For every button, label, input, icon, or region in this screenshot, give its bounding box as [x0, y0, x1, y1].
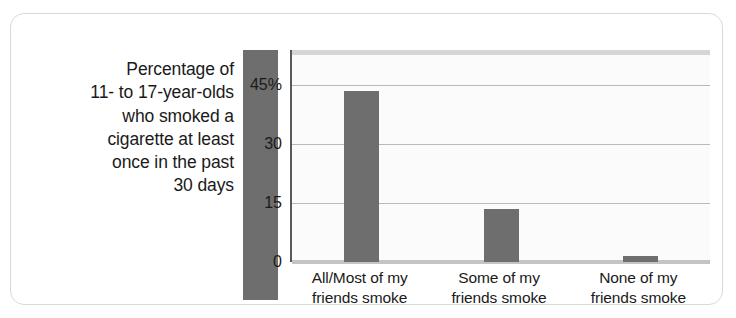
x-axis-labels: All/Most of my friends smoke Some of my … — [290, 268, 708, 318]
x-label-some-friends-smoke: Some of my friends smoke — [429, 268, 568, 308]
y-tick-label: 15 — [264, 195, 282, 211]
x-label-line: friends smoke — [569, 288, 708, 308]
y-axis-caption-line: 30 days — [39, 174, 234, 197]
y-axis-caption-line: 11- to 17-year-olds — [39, 81, 234, 104]
x-label-line: None of my — [569, 268, 708, 288]
plot-area — [290, 50, 710, 262]
y-axis-caption: Percentage of 11- to 17-year-olds who sm… — [39, 58, 234, 198]
chart-card: Percentage of 11- to 17-year-olds who sm… — [10, 13, 723, 305]
y-tick-label: 30 — [264, 136, 282, 152]
x-label-none-friends-smoke: None of my friends smoke — [569, 268, 708, 308]
bars-layer — [292, 50, 710, 262]
bar-none-friends-smoke — [623, 256, 658, 262]
bar-all-most-friends-smoke — [344, 91, 379, 262]
x-label-line: All/Most of my — [290, 268, 429, 288]
bar-chart: 45% 30 15 0 All/Most of my friends smoke — [243, 50, 278, 300]
x-label-line: Some of my — [429, 268, 568, 288]
y-tick-label: 45% — [250, 77, 282, 93]
x-label-line: friends smoke — [429, 288, 568, 308]
x-label-all-most-friends-smoke: All/Most of my friends smoke — [290, 268, 429, 308]
x-label-line: friends smoke — [290, 288, 429, 308]
y-axis-caption-line: who smoked a — [39, 105, 234, 128]
y-axis-caption-line: cigarette at least — [39, 128, 234, 151]
bar-some-friends-smoke — [484, 209, 519, 262]
y-axis-caption-line: once in the past — [39, 151, 234, 174]
y-axis-ticks: 45% 30 15 0 — [243, 50, 287, 300]
y-axis-caption-line: Percentage of — [39, 58, 234, 81]
y-tick-label: 0 — [273, 254, 282, 270]
